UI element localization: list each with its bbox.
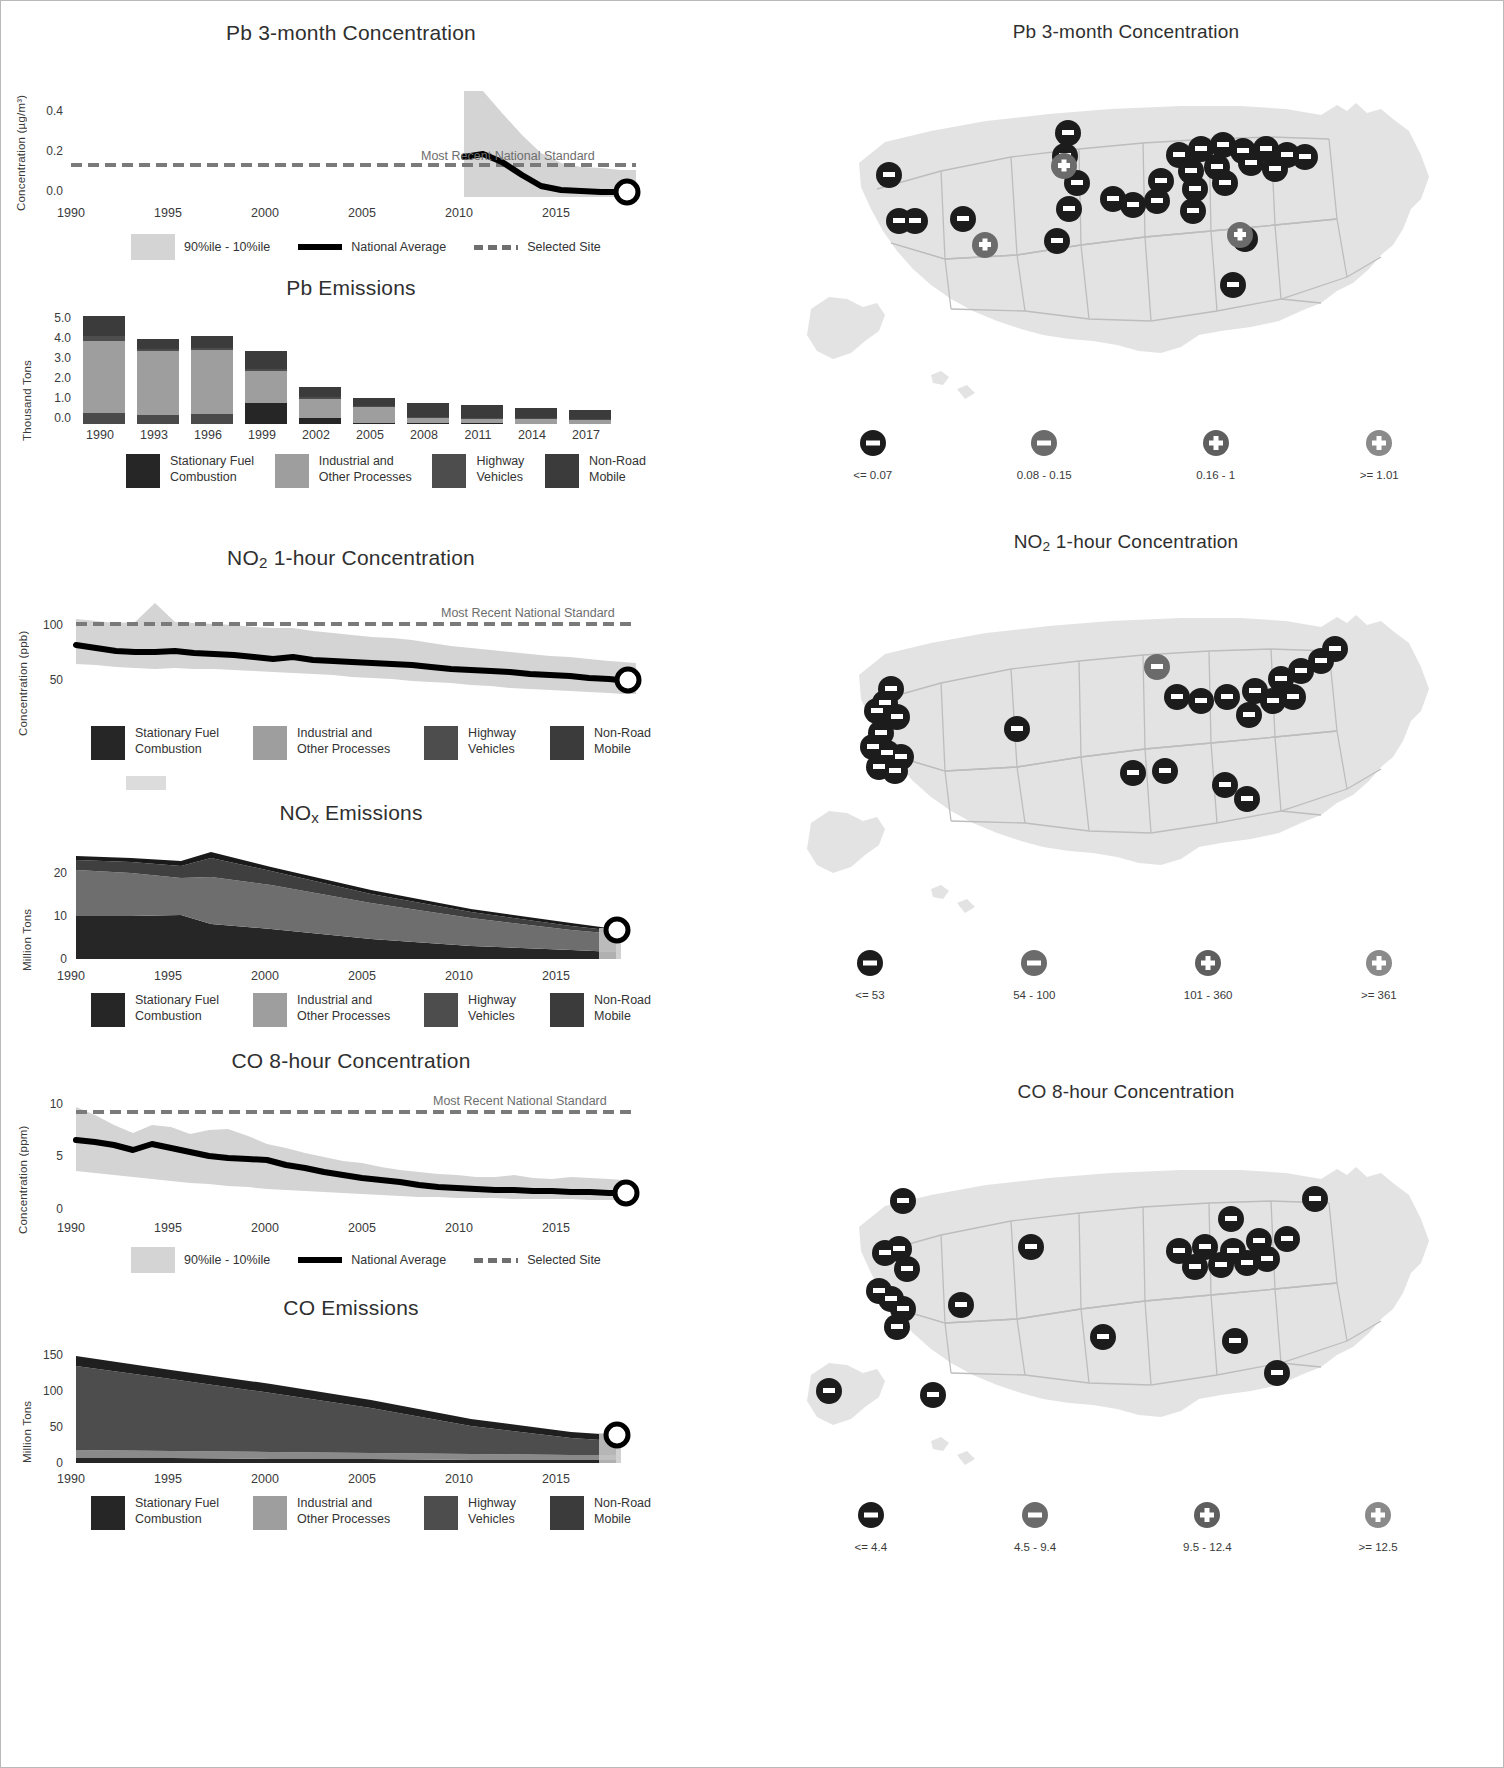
map-legend-bin-3[interactable]: 0.16 - 1 xyxy=(1196,429,1235,481)
category-item-highway[interactable]: Highway Vehicles xyxy=(424,726,516,760)
nox-xtick-1: 1995 xyxy=(138,969,198,983)
nox-emissions-title: NOx Emissions xyxy=(1,801,701,826)
pb-emis-xtick-1: 1993 xyxy=(124,428,184,442)
pb-emis-xtick-8: 2014 xyxy=(502,428,562,442)
nox-xtick-2: 2000 xyxy=(235,969,295,983)
category-item-stationary-fuel[interactable]: Stationary Fuel Combustion xyxy=(91,726,219,760)
map-legend-bin-2[interactable]: 4.5 - 9.4 xyxy=(1014,1501,1056,1553)
legend-item-site[interactable]: Selected Site xyxy=(474,1253,601,1267)
category-item-industrial[interactable]: Industrial and Other Processes xyxy=(253,726,390,760)
pb-concentration-panel: Pb 3-month Concentration Concentration (… xyxy=(1,21,701,271)
category-item-nonroad[interactable]: Non-Road Mobile xyxy=(550,726,651,760)
category-label-highway: Highway Vehicles xyxy=(468,993,516,1024)
pb-concentration-legend: 90%ile - 10%ile National Average Selecte… xyxy=(131,234,601,260)
dashboard-page: Pb 3-month Concentration Concentration (… xyxy=(0,0,1504,1768)
category-item-highway[interactable]: Highway Vehicles xyxy=(432,454,524,488)
stationary-fuel-swatch-icon xyxy=(91,1496,125,1530)
category-item-highway[interactable]: Highway Vehicles xyxy=(424,1496,516,1530)
band-swatch-icon xyxy=(131,1247,175,1273)
category-item-stationary-fuel[interactable]: Stationary Fuel Combustion xyxy=(91,993,219,1027)
map-legend-bin-2[interactable]: 0.08 - 0.15 xyxy=(1017,429,1072,481)
pb-ytick-1: 0.2 xyxy=(23,144,63,158)
map-legend-bin-1[interactable]: <= 53 xyxy=(855,949,884,1001)
no2-ytick-1: 50 xyxy=(23,673,63,687)
map-legend-bin-4[interactable]: >= 361 xyxy=(1361,949,1397,1001)
map-legend-bin-1-label: <= 53 xyxy=(855,989,884,1001)
pb-emis-ytick-1: 4.0 xyxy=(31,331,71,345)
map-legend-bin-1[interactable]: <= 0.07 xyxy=(853,429,892,481)
category-label-highway: Highway Vehicles xyxy=(468,1496,516,1527)
band-swatch-icon xyxy=(131,234,175,260)
co-concentration-title: CO 8-hour Concentration xyxy=(1,1049,701,1073)
plus-marker-light-icon xyxy=(1365,949,1393,977)
legend-site-label: Selected Site xyxy=(527,1253,601,1267)
co-emissions-category-legend: Stationary Fuel Combustion Industrial an… xyxy=(91,1496,651,1530)
category-item-stationary-fuel[interactable]: Stationary Fuel Combustion xyxy=(126,454,254,488)
co-emis-xtick-5: 2015 xyxy=(526,1472,586,1486)
category-item-industrial[interactable]: Industrial and Other Processes xyxy=(253,993,390,1027)
nox-ytick-2: 0 xyxy=(27,952,67,966)
nonroad-swatch-icon xyxy=(550,1496,584,1530)
highway-swatch-icon xyxy=(424,1496,458,1530)
selected-site-swatch-icon xyxy=(474,245,518,250)
pb-emissions-title: Pb Emissions xyxy=(1,276,701,300)
average-line-swatch-icon xyxy=(298,1257,342,1263)
co-emis-xtick-2: 2000 xyxy=(235,1472,295,1486)
category-label-highway: Highway Vehicles xyxy=(468,726,516,757)
minus-marker-mid-icon xyxy=(1020,949,1048,977)
pb-emis-xtick-5: 2005 xyxy=(340,428,400,442)
pb-emis-xtick-9: 2017 xyxy=(556,428,616,442)
co-xtick-5: 2015 xyxy=(526,1221,586,1235)
pb-emis-ytick-5: 0.0 xyxy=(31,411,71,425)
map-legend-bin-1-label: <= 0.07 xyxy=(853,469,892,481)
co-map-legend: <= 4.4 4.5 - 9.4 9.5 - 12.4 >= 12.5 xyxy=(791,1501,1461,1553)
co-ytick-1: 5 xyxy=(23,1149,63,1163)
co-emis-xtick-3: 2005 xyxy=(332,1472,392,1486)
legend-item-site[interactable]: Selected Site xyxy=(474,240,601,254)
pb-ytick-0: 0.4 xyxy=(23,104,63,118)
minus-marker-dark-icon xyxy=(856,949,884,977)
category-item-industrial[interactable]: Industrial and Other Processes xyxy=(253,1496,390,1530)
category-item-nonroad[interactable]: Non-Road Mobile xyxy=(545,454,646,488)
co-emis-xtick-4: 2010 xyxy=(429,1472,489,1486)
co-emissions-plot xyxy=(71,1338,641,1466)
co-us-map[interactable] xyxy=(781,1123,1471,1493)
map-legend-bin-1[interactable]: <= 4.4 xyxy=(854,1501,887,1553)
map-legend-bin-4-label: >= 12.5 xyxy=(1359,1541,1398,1553)
legend-item-average[interactable]: National Average xyxy=(298,1253,446,1267)
co-xtick-3: 2005 xyxy=(332,1221,392,1235)
industrial-swatch-icon xyxy=(275,454,309,488)
pb-standard-label: Most Recent National Standard xyxy=(421,149,595,163)
legend-item-band[interactable]: 90%ile - 10%ile xyxy=(131,1247,270,1273)
pb-emis-ytick-2: 3.0 xyxy=(31,351,71,365)
highway-swatch-icon xyxy=(432,454,466,488)
pb-map-title: Pb 3-month Concentration xyxy=(761,21,1491,43)
no2-us-map[interactable] xyxy=(781,571,1471,941)
pb-ytick-2: 0.0 xyxy=(23,184,63,198)
co-emis-ytick-2: 50 xyxy=(23,1420,63,1434)
legend-item-band[interactable]: 90%ile - 10%ile xyxy=(131,234,270,260)
category-item-stationary-fuel[interactable]: Stationary Fuel Combustion xyxy=(91,1496,219,1530)
legend-band-label: 90%ile - 10%ile xyxy=(184,240,270,254)
co-xtick-2: 2000 xyxy=(235,1221,295,1235)
category-item-nonroad[interactable]: Non-Road Mobile xyxy=(550,1496,651,1530)
map-legend-bin-2[interactable]: 54 - 100 xyxy=(1013,949,1055,1001)
pb-us-map[interactable] xyxy=(781,59,1471,419)
category-label-nonroad: Non-Road Mobile xyxy=(594,993,651,1024)
co-emis-xtick-1: 1995 xyxy=(138,1472,198,1486)
co-ytick-0: 10 xyxy=(23,1097,63,1111)
map-legend-bin-3[interactable]: 101 - 360 xyxy=(1184,949,1233,1001)
category-item-industrial[interactable]: Industrial and Other Processes xyxy=(275,454,412,488)
category-item-nonroad[interactable]: Non-Road Mobile xyxy=(550,993,651,1027)
legend-item-average[interactable]: National Average xyxy=(298,240,446,254)
map-legend-bin-3-label: 0.16 - 1 xyxy=(1196,469,1235,481)
map-legend-bin-3[interactable]: 9.5 - 12.4 xyxy=(1183,1501,1232,1553)
pb-emis-xtick-2: 1996 xyxy=(178,428,238,442)
average-line-swatch-icon xyxy=(298,244,342,250)
nox-emissions-category-legend: Stationary Fuel Combustion Industrial an… xyxy=(91,993,651,1027)
nox-emissions-plot xyxy=(71,846,641,964)
map-legend-bin-4[interactable]: >= 1.01 xyxy=(1360,429,1399,481)
map-legend-bin-4[interactable]: >= 12.5 xyxy=(1359,1501,1398,1553)
nox-xtick-5: 2015 xyxy=(526,969,586,983)
category-item-highway[interactable]: Highway Vehicles xyxy=(424,993,516,1027)
